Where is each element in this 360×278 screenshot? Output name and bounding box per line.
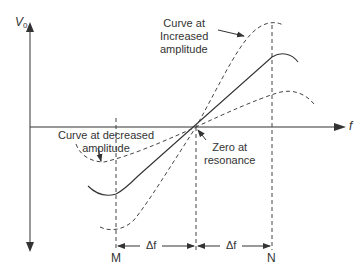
increased-label-line1: Curve at	[160, 17, 208, 30]
zero-pointer-arrow	[198, 130, 206, 140]
zero-label-line1: Zero at	[204, 141, 255, 154]
normal-curve	[88, 54, 298, 195]
y-axis-label-text: V	[15, 15, 23, 29]
x-axis-label: f	[349, 120, 352, 133]
zero-at-resonance-label: Zero at resonance	[204, 141, 255, 167]
increased-amplitude-label: Curve at Increased amplitude	[160, 17, 208, 56]
y-axis	[26, 22, 34, 252]
decreased-label-line2: amplitude	[58, 142, 154, 155]
marker-m: M	[111, 252, 121, 265]
y-axis-label: V0	[15, 16, 27, 32]
delta-f-right-label: Δf	[224, 239, 238, 252]
zero-label-line2: resonance	[204, 154, 255, 167]
marker-n: N	[267, 252, 276, 265]
increased-label-line3: amplitude	[160, 43, 208, 56]
decreased-label-line1: Curve at decreased	[58, 129, 154, 142]
delta-f-left-label: Δf	[144, 239, 158, 252]
increased-label-line2: Increased	[160, 30, 208, 43]
increased-pointer-arrow	[218, 30, 244, 36]
decreased-amplitude-label: Curve at decreased amplitude	[58, 129, 154, 155]
y-axis-label-subscript: 0	[23, 21, 27, 30]
